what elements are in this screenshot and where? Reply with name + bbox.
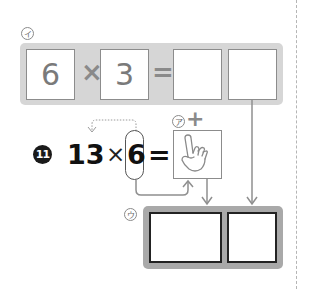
- answer-tens-box-bottom[interactable]: [149, 212, 222, 263]
- plus-sign: +: [186, 106, 204, 131]
- label-u-circle: ウ: [124, 208, 137, 221]
- answer-ones-box-bottom[interactable]: [227, 212, 277, 263]
- label-a-text: ア: [175, 116, 183, 127]
- problem-number-text: 11: [36, 148, 49, 161]
- hint-box: [173, 130, 222, 179]
- multiplier-text: 6: [127, 139, 146, 170]
- pointing-hand-icon: [174, 131, 220, 177]
- equals-sign: =: [148, 139, 171, 170]
- multiplicand-text: 13: [67, 139, 105, 170]
- multiply-sign: ×: [106, 141, 125, 167]
- label-u-text: ウ: [127, 209, 135, 220]
- problem-number-badge: 11: [33, 145, 52, 164]
- label-a-circle: ア: [172, 115, 185, 128]
